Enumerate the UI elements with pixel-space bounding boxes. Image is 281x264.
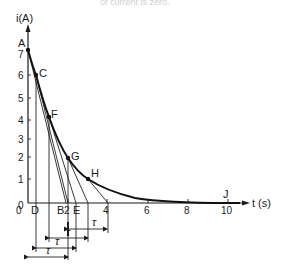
label-f: F <box>51 108 58 120</box>
svg-text:2: 2 <box>64 205 70 216</box>
tau-label-2: τ <box>66 226 71 238</box>
point-g <box>66 156 70 160</box>
svg-text:7: 7 <box>18 49 24 60</box>
y-tick-labels: 0 1 2 3 4 5 6 7 <box>18 49 24 211</box>
x-axis-label: t (s) <box>252 197 271 209</box>
svg-text:4: 4 <box>18 115 24 126</box>
svg-text:1: 1 <box>18 174 24 185</box>
decay-curve <box>28 50 240 203</box>
label-d: D <box>31 204 39 216</box>
svg-text:6: 6 <box>18 70 24 81</box>
label-h: H <box>91 167 99 179</box>
svg-text:3: 3 <box>18 134 24 145</box>
y-axis-arrow-icon <box>26 24 31 32</box>
svg-text:10: 10 <box>221 205 233 216</box>
svg-text:8: 8 <box>184 205 190 216</box>
caption-fragment: of current is zero. <box>100 0 170 7</box>
tau-label-3: τ <box>55 235 60 247</box>
svg-text:2: 2 <box>18 152 24 163</box>
decay-diagram: of current is zero. i(A) t (s) 0 1 2 3 4… <box>0 0 281 264</box>
label-j: J <box>223 188 229 200</box>
point-h <box>86 177 90 181</box>
origin-label: 0 <box>16 205 22 216</box>
label-g: G <box>71 150 80 162</box>
tau-label-1: τ <box>92 216 97 228</box>
tau-label-4: τ <box>46 244 51 256</box>
x-axis-arrow-icon <box>242 201 250 206</box>
label-c: C <box>39 67 47 79</box>
svg-text:5: 5 <box>18 93 24 104</box>
x-tick-labels: 2 4 6 8 10 <box>64 205 233 216</box>
point-a <box>26 48 30 52</box>
label-a: A <box>18 37 26 49</box>
y-axis-label: i(A) <box>16 12 33 24</box>
label-b: B <box>57 204 64 216</box>
point-c <box>34 73 38 77</box>
svg-text:6: 6 <box>144 205 150 216</box>
label-e: E <box>73 204 80 216</box>
